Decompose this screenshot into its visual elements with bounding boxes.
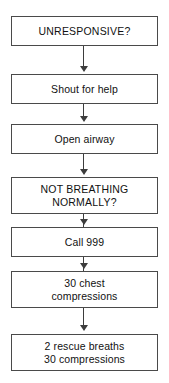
flowchart-arrowhead-icon <box>80 66 88 72</box>
flowchart-node-not-breathing-normally[interactable]: NOT BREATHING NORMALLY? <box>11 177 158 214</box>
flowchart-node-2-rescue-breaths[interactable]: 2 rescue breaths 30 compressions <box>11 334 158 371</box>
flowchart-node-label: NOT BREATHING NORMALLY? <box>37 183 133 208</box>
flowchart-node-label: 2 rescue breaths 30 compressions <box>40 340 129 365</box>
flowchart-node-call-999[interactable]: Call 999 <box>11 227 158 257</box>
flowchart-node-label: Call 999 <box>61 236 108 249</box>
flowchart-node-label: UNRESPONSIVE? <box>35 25 135 38</box>
flowchart-node-30-chest-compressions[interactable]: 30 chest compressions <box>11 271 158 308</box>
flowchart-node-label: Shout for help <box>47 83 122 96</box>
flowchart-node-label: Open airway <box>50 133 118 146</box>
flowchart-connector-line <box>83 46 84 68</box>
flowchart-node-open-airway[interactable]: Open airway <box>11 124 158 154</box>
flowchart-node-unresponsive[interactable]: UNRESPONSIVE? <box>11 16 158 46</box>
flowchart-node-shout-for-help[interactable]: Shout for help <box>11 74 158 104</box>
flowchart-arrowhead-icon <box>80 325 88 331</box>
flowchart-arrowhead-icon <box>80 263 88 269</box>
cpr-flowchart: UNRESPONSIVE? Shout for help Open airway… <box>0 0 169 383</box>
flowchart-arrowhead-icon <box>80 116 88 122</box>
flowchart-arrowhead-icon <box>80 219 88 225</box>
flowchart-node-label: 30 chest compressions <box>48 277 122 302</box>
flowchart-arrowhead-icon <box>80 169 88 175</box>
